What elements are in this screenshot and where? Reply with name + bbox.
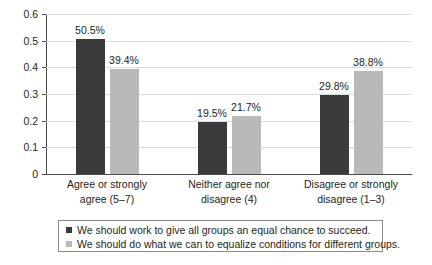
bar-data-label: 50.5%: [70, 25, 110, 36]
x-axis-category-labels: Agree or stronglyagree (5–7)Neither agre…: [46, 177, 412, 211]
category-label-line: disagree (4): [168, 192, 290, 207]
y-axis-tick-label: 0: [0, 169, 38, 179]
plot-area: 50.5%39.4%19.5%21.7%29.8%38.8%: [46, 14, 412, 174]
bar-data-label: 21.7%: [226, 102, 266, 113]
y-axis-tick-label: 0.6: [0, 9, 38, 19]
y-axis-tick: [42, 174, 46, 175]
y-axis-tick-label: 0.1: [0, 142, 38, 152]
y-axis-tick: [42, 94, 46, 95]
chart-legend: We should work to give all groups an equ…: [58, 220, 383, 252]
x-axis-baseline: [46, 174, 412, 175]
y-axis-tick: [42, 147, 46, 148]
y-axis-tick: [42, 67, 46, 68]
legend-label: We should do what we can to equalize con…: [77, 238, 400, 250]
category-label-line: Agree or strongly: [46, 177, 168, 192]
legend-item-series-0[interactable]: We should work to give all groups an equ…: [66, 223, 370, 237]
y-axis-tick-label: 0.5: [0, 36, 38, 46]
category-label-line: Disagree or strongly: [290, 177, 412, 192]
bar-data-label: 39.4%: [104, 55, 144, 66]
bar-series-0-category-2[interactable]: [320, 95, 349, 174]
bar-data-label: 38.8%: [348, 57, 388, 68]
x-axis-category-label: Neither agree nordisagree (4): [168, 177, 290, 207]
legend-swatch-icon: [66, 241, 72, 247]
bar-series-1-category-0[interactable]: [110, 69, 139, 174]
bar-series-1-category-1[interactable]: [232, 116, 261, 174]
legend-label: We should work to give all groups an equ…: [77, 224, 370, 236]
y-axis-tick: [42, 14, 46, 15]
y-axis-tick-label: 0.3: [0, 89, 38, 99]
bar-series-1-category-2[interactable]: [354, 71, 383, 174]
bar-data-label: 29.8%: [314, 81, 354, 92]
category-label-line: disagree (1–3): [290, 192, 412, 207]
y-axis-tick-label: 0.2: [0, 116, 38, 126]
y-axis-tick-label: 0.4: [0, 62, 38, 72]
category-label-line: Neither agree nor: [168, 177, 290, 192]
y-axis-tick: [42, 41, 46, 42]
legend-item-series-1[interactable]: We should do what we can to equalize con…: [66, 237, 400, 251]
x-axis-category-label: Agree or stronglyagree (5–7): [46, 177, 168, 207]
gridline: [46, 14, 412, 15]
bar-series-0-category-1[interactable]: [198, 122, 227, 174]
x-axis-category-label: Disagree or stronglydisagree (1–3): [290, 177, 412, 207]
bar-series-0-category-0[interactable]: [76, 39, 105, 174]
legend-swatch-icon: [66, 227, 72, 233]
category-label-line: agree (5–7): [46, 192, 168, 207]
bar-chart: 00.10.20.30.40.50.6 50.5%39.4%19.5%21.7%…: [0, 0, 432, 265]
y-axis-tick: [42, 121, 46, 122]
y-axis-tick-labels: 00.10.20.30.40.50.6: [0, 0, 40, 265]
